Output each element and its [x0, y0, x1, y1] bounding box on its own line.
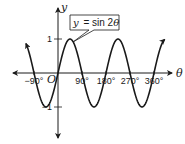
- x-axis-label: θ: [176, 67, 183, 80]
- equation-callout: y = sin 2θ: [70, 15, 119, 42]
- equation-var: θ: [113, 17, 119, 28]
- equation-lhs: y: [72, 17, 79, 28]
- equation-label: y = sin 2θ: [72, 17, 119, 28]
- equation-rhs: = sin 2: [83, 17, 113, 28]
- x-tick-label: −90°: [25, 76, 44, 86]
- x-tick-label: 270°: [121, 76, 140, 86]
- x-tick-label: 180°: [97, 76, 116, 86]
- sine-graph: θ y O −90°90°180°270°360° 1−1 y = sin 2θ: [0, 0, 185, 144]
- x-tick-label: 90°: [75, 76, 89, 86]
- x-tick-label: 360°: [145, 76, 164, 86]
- y-tick-label: 1: [47, 34, 52, 44]
- y-axis-label: y: [60, 1, 68, 14]
